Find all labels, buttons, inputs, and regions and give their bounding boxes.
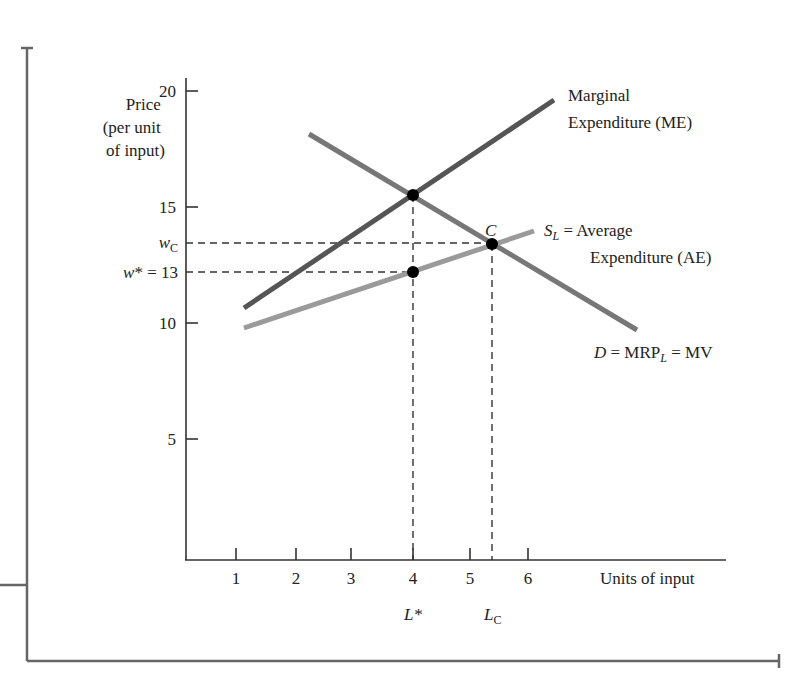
wc-label: wC	[159, 233, 178, 255]
point-c-label: C	[485, 221, 497, 240]
d-curve-label: D = MRPL = MV	[593, 343, 713, 365]
x-axis-label: Units of input	[600, 569, 695, 588]
dashed-guides	[186, 195, 492, 560]
y-tick-label: 10	[159, 314, 176, 333]
x-tick-label: 6	[524, 569, 533, 588]
y-tick-label: 15	[159, 198, 176, 217]
x-tick-label: 3	[347, 569, 356, 588]
y-axis-label: Price (per unit of input)	[103, 95, 165, 160]
me-mrp-intersection-point	[407, 189, 419, 201]
y-tick-label: 5	[168, 430, 177, 449]
me-curve-label: Marginal Expenditure (ME)	[568, 86, 692, 132]
x-tick-label: 4	[409, 569, 418, 588]
x-tick-label: 1	[232, 569, 241, 588]
sl-curve-label: SL = Average Expenditure (AE)	[544, 221, 711, 267]
wstar-label: w* = 13	[123, 263, 178, 282]
lc-label: LC	[483, 605, 501, 627]
x-tick-label: 5	[466, 569, 475, 588]
lstar-label: L*	[403, 605, 422, 624]
x-tick-label: 2	[292, 569, 301, 588]
curves	[244, 100, 637, 330]
monopsony-wage-point	[407, 266, 419, 278]
monopsony-chart: 5101520 123456 Price (per unit of input)…	[0, 0, 789, 673]
x-ticks: 123456	[232, 548, 533, 588]
